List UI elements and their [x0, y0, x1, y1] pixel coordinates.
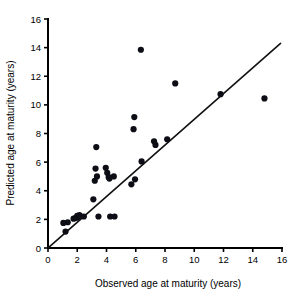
data-point: [128, 181, 134, 187]
data-point: [164, 136, 170, 142]
data-point: [111, 213, 117, 219]
x-tick-label: 4: [104, 254, 109, 265]
y-tick-label: 16: [30, 14, 41, 25]
x-tick-label: 16: [277, 254, 288, 265]
y-tick-label: 0: [36, 243, 41, 254]
data-point: [90, 196, 96, 202]
scatter-plot-figure: 0246810121416 0246810121416 Observed age…: [0, 0, 298, 292]
data-point: [93, 144, 99, 150]
x-tick-label: 6: [133, 254, 138, 265]
data-point: [111, 173, 117, 179]
chart-canvas: 0246810121416 0246810121416 Observed age…: [0, 0, 298, 292]
y-tick-label: 6: [36, 157, 41, 168]
y-tick-label: 10: [30, 99, 41, 110]
y-tick-label: 14: [30, 42, 41, 53]
data-point: [94, 173, 100, 179]
data-point: [65, 219, 71, 225]
x-tick-label: 14: [247, 254, 258, 265]
y-tick-label: 2: [36, 214, 41, 225]
data-points: [60, 47, 267, 235]
x-tick-label: 12: [218, 254, 229, 265]
data-point: [130, 126, 136, 132]
data-point: [138, 47, 144, 53]
data-point: [261, 95, 267, 101]
data-point: [217, 91, 223, 97]
y-axis-tick-labels: 0246810121416: [30, 14, 41, 254]
data-point: [92, 165, 98, 171]
y-tick-label: 8: [36, 128, 41, 139]
x-tick-label: 0: [45, 254, 50, 265]
data-point: [81, 213, 87, 219]
y-tick-label: 12: [30, 71, 41, 82]
x-axis-tick-labels: 0246810121416: [45, 254, 287, 265]
x-tick-label: 10: [189, 254, 200, 265]
y-axis-title: Predicted age at maturity (years): [5, 60, 16, 205]
y-tick-label: 4: [36, 185, 41, 196]
x-tick-label: 8: [162, 254, 167, 265]
x-tick-label: 2: [75, 254, 80, 265]
x-axis-title: Observed age at maturity (years): [95, 278, 241, 289]
data-point: [95, 213, 101, 219]
data-point: [172, 80, 178, 86]
data-point: [62, 228, 68, 234]
data-point: [152, 142, 158, 148]
data-point: [131, 114, 137, 120]
data-point: [139, 158, 145, 164]
data-point: [132, 176, 138, 182]
